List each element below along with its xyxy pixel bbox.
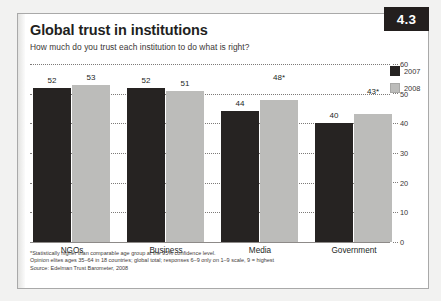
bar-value-label-business-2007: 52 [127,76,165,85]
y-axis-tick-label: 30 [400,149,408,158]
y-axis-tick-label: 10 [400,208,408,217]
y-axis-tick-mark [393,182,398,183]
legend-swatch-2007 [390,66,400,76]
chart-legend: 20072008 [390,65,438,99]
figure-subtitle: How much do you trust each institution t… [30,42,249,52]
bar-value-label-government-2008: 43* [354,87,392,96]
y-axis-tick-0: 0 [400,238,404,247]
bar-value-label-ngos-2007: 52 [33,76,71,85]
gridline-0 [30,242,390,243]
y-axis-tick-mark [393,153,398,154]
bar-group-ngos: 5253 [33,64,111,242]
bar-business-2008[interactable] [166,91,204,242]
legend-item-2007[interactable]: 2007 [390,65,438,79]
y-axis-tick-mark [393,212,398,213]
bar-government-2007[interactable] [315,123,353,242]
bar-group-media: 4448* [221,64,299,242]
y-axis-tick-mark [393,123,398,124]
figure-card: 4.3 Global trust in institutions How muc… [17,13,429,289]
page-spine-shadow [18,14,25,288]
bar-media-2007[interactable] [221,111,259,242]
legend-swatch-2008 [390,83,400,93]
y-axis-tick-label: 40 [400,119,408,128]
bar-value-label-media-2008: 48* [260,73,298,82]
bar-value-label-government-2007: 40 [315,111,353,120]
chart-plot-area: 5253NGOs5251Business4448*Media4043*Gover… [30,64,390,242]
bar-group-government: 4043* [315,64,393,242]
y-axis-tick-10: 10 [400,208,408,217]
y-axis-tick-40: 40 [400,119,408,128]
figure-note-3: Source: Edelman Trust Barometer, 2008 [30,265,360,272]
y-axis-tick-label: 0 [400,238,404,247]
bar-government-2008[interactable] [354,114,392,242]
bar-group-business: 5251 [127,64,205,242]
figure-number-badge: 4.3 [384,7,429,31]
legend-label-2007: 2007 [404,67,420,76]
figure-title: Global trust in institutions [30,22,208,38]
figure-note-2: Opinion elites ages 35–64 in 18 countrie… [30,257,360,264]
y-axis-tick-label: 20 [400,178,408,187]
figure-notes: *Statistically higher than comparable ag… [30,250,360,272]
legend-label-2008: 2008 [404,84,420,93]
y-axis-tick-20: 20 [400,178,408,187]
y-axis-tick-30: 30 [400,149,408,158]
page-background: 4.3 Global trust in institutions How muc… [0,0,441,301]
legend-item-2008[interactable]: 2008 [390,82,438,96]
bar-ngos-2007[interactable] [33,88,71,242]
y-axis-tick-mark [393,242,398,243]
figure-note-1: *Statistically higher than comparable ag… [30,250,360,257]
bar-ngos-2008[interactable] [72,85,110,242]
bar-value-label-business-2008: 51 [166,79,204,88]
bar-media-2008[interactable] [260,100,298,242]
bar-business-2007[interactable] [127,88,165,242]
bar-value-label-media-2007: 44 [221,99,259,108]
bar-value-label-ngos-2008: 53 [72,73,110,82]
